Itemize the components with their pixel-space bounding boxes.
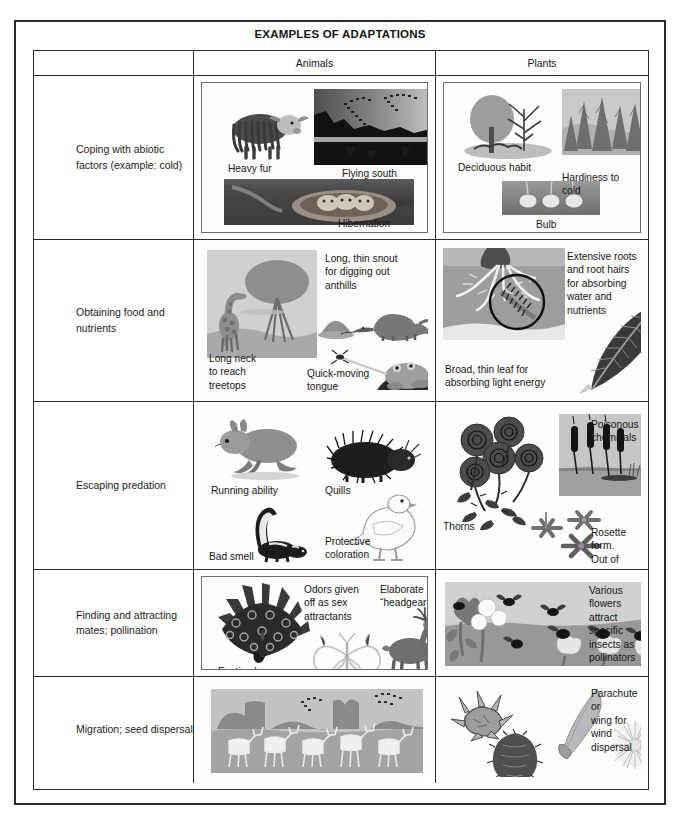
caption-parachute-wing: Parachute or wing for wind dispersal — [591, 687, 641, 754]
cell-mates-plants: Various flowers attract specific insects… — [436, 570, 648, 677]
cell-migration-plants: Clinging burs Parachute or wing for wind… — [436, 677, 648, 783]
column-header-plants: Plants — [436, 51, 648, 76]
roots-photo — [443, 248, 565, 340]
panel-migration-animals — [201, 683, 428, 777]
page-title: EXAMPLES OF ADAPTATIONS — [16, 28, 664, 40]
cell-mates-animals: Exotic plumage Odors given off as sex at… — [194, 570, 436, 677]
row-label-food: Obtaining food and nutrients — [34, 240, 194, 402]
deer-antlers-art — [378, 607, 428, 670]
row-label-food-text: Obtaining food and nutrients — [76, 305, 193, 335]
caption-heavy-fur: Heavy fur — [228, 162, 272, 175]
caption-poisonous-chemicals: Poisonous chemicals — [591, 418, 639, 445]
panel-mates-animals: Exotic plumage Odors given off as sex at… — [201, 576, 428, 670]
deciduous-habit-art — [458, 91, 558, 159]
caption-bad-smell: Bad smell — [209, 550, 254, 563]
caption-various-flowers: Various flowers attract specific insects… — [589, 584, 641, 665]
caption-hibernation: Hibernation — [338, 217, 390, 230]
cell-food-animals: Long neck to reach treetops Long, thin s… — [194, 240, 436, 402]
panel-abiotic-animals: Heavy fur Flying south Hibernation — [201, 82, 428, 233]
caption-protective-coloration: Protective coloration — [325, 535, 370, 562]
page-frame: EXAMPLES OF ADAPTATIONS Animals Plants C… — [14, 20, 666, 805]
moth-odor-art — [308, 625, 386, 670]
cell-food-plants: Extensive roots and root hairs for absor… — [436, 240, 648, 402]
running-rabbit-art — [215, 420, 309, 482]
caption-quick-moving-tongue: Quick-moving tongue — [307, 367, 369, 394]
caption-exotic-plumage: Exotic plumage — [218, 665, 288, 670]
table-corner-blank — [34, 51, 194, 76]
row-label-migration-text: Migration; seed dispersal — [76, 722, 193, 737]
column-header-animals-label: Animals — [296, 57, 333, 69]
caption-long-thin-snout: Long, thin snout for digging out anthill… — [325, 252, 398, 292]
row-label-predation-text: Escaping predation — [76, 478, 166, 493]
adaptations-table: Animals Plants Coping with abiotic facto… — [33, 50, 649, 790]
panel-food-animals: Long neck to reach treetops Long, thin s… — [201, 246, 428, 395]
panel-migration-plants: Clinging burs Parachute or wing for wind… — [443, 683, 641, 777]
porcupine-quills-art — [325, 428, 421, 484]
panel-predation-plants: Thorns Poisonous chemicals Rosette form.… — [443, 408, 641, 563]
column-header-plants-label: Plants — [527, 57, 556, 69]
caption-elaborate-headgear: Elaborate “headgear” — [380, 583, 428, 610]
migration-photo — [211, 689, 423, 773]
round-bur-art — [485, 729, 545, 777]
giraffe-scene-photo — [207, 250, 317, 358]
caption-extensive-roots: Extensive roots and root hairs for absor… — [567, 250, 641, 317]
caption-odors-sex-attractants: Odors given off as sex attractants — [304, 583, 359, 623]
row-label-abiotic: Coping with abiotic factors (example: co… — [34, 76, 194, 240]
column-header-animals: Animals — [194, 51, 436, 76]
cell-abiotic-animals: Heavy fur Flying south Hibernation — [194, 76, 436, 240]
caption-bulb: Bulb — [536, 218, 556, 231]
caption-broad-thin-leaf: Broad, thin leaf for absorbing light ene… — [445, 363, 545, 390]
row-label-mates-text: Finding and attracting mates; pollinatio… — [76, 608, 193, 638]
cell-predation-animals: Running ability Quills Bad smell Protect… — [194, 402, 436, 570]
cell-predation-plants: Thorns Poisonous chemicals Rosette form.… — [436, 402, 648, 570]
row-label-abiotic-text: Coping with abiotic factors (example: co… — [76, 142, 193, 172]
anteater-anthill-art — [319, 294, 428, 342]
row-label-mates: Finding and attracting mates; pollinatio… — [34, 570, 194, 677]
caption-thorns: Thorns — [443, 520, 475, 533]
row-label-predation: Escaping predation — [34, 402, 194, 570]
flying-south-photo — [314, 89, 428, 165]
peacock-art — [212, 583, 312, 665]
caption-running-ability: Running ability — [211, 484, 278, 497]
heavy-fur-animal-art — [224, 107, 308, 159]
cell-abiotic-plants: Deciduous habit Hardiness to cold Bulb — [436, 76, 648, 240]
caption-flying-south: Flying south — [342, 167, 397, 180]
hardiness-to-cold-photo — [562, 89, 641, 155]
panel-predation-animals: Running ability Quills Bad smell Protect… — [201, 408, 428, 563]
panel-mates-plants: Various flowers attract specific insects… — [443, 576, 641, 670]
caption-long-neck: Long neck to reach treetops — [209, 352, 256, 392]
caption-deciduous-habit: Deciduous habit — [458, 161, 531, 174]
row-label-migration: Migration; seed dispersal — [34, 677, 194, 783]
cell-migration-animals — [194, 677, 436, 783]
caption-hardiness-to-cold: Hardiness to cold — [562, 171, 640, 198]
panel-food-plants: Extensive roots and root hairs for absor… — [443, 246, 641, 395]
caption-quills: Quills — [325, 484, 350, 497]
caption-rosette-form: Rosette form. Out of reach of grazing an… — [591, 526, 641, 563]
panel-abiotic-plants: Deciduous habit Hardiness to cold Bulb — [443, 82, 641, 233]
